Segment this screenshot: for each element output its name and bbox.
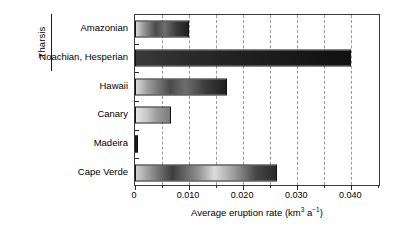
x-tick-label: 0 bbox=[131, 190, 136, 200]
category-tick bbox=[135, 72, 139, 73]
bar bbox=[135, 50, 351, 67]
category-tick bbox=[135, 130, 139, 131]
bar bbox=[135, 164, 277, 181]
category-label: Amazonian bbox=[80, 23, 128, 33]
x-tick-minor bbox=[270, 185, 271, 188]
x-axis-tick-labels: 00.0100.0200.0300.040 bbox=[134, 190, 380, 202]
group-bracket-tharsis: Tharsis bbox=[12, 14, 52, 71]
group-bracket-label: Tharsis bbox=[36, 14, 48, 71]
x-axis-title-text: Average eruption rate (km bbox=[191, 207, 301, 218]
bar-series bbox=[135, 15, 379, 185]
category-tick bbox=[135, 158, 139, 159]
x-tick-minor bbox=[216, 185, 217, 188]
x-tick-minor bbox=[378, 185, 379, 188]
x-tick-label: 0.040 bbox=[339, 190, 362, 200]
bar bbox=[135, 78, 227, 95]
bar bbox=[135, 21, 189, 38]
category-tick bbox=[135, 101, 139, 102]
category-label: Noachian, Hesperian bbox=[39, 52, 128, 62]
x-axis-title-paren: ) bbox=[320, 207, 323, 218]
x-axis-title: Average eruption rate (km3 a−1) bbox=[134, 206, 380, 218]
category-label: Hawaii bbox=[99, 81, 128, 91]
x-axis-title-exponent-time: −1 bbox=[312, 206, 319, 213]
chart-figure: Tharsis AmazonianNoachian, HesperianHawa… bbox=[0, 0, 397, 240]
category-tick bbox=[135, 44, 139, 45]
category-label: Canary bbox=[97, 109, 128, 119]
x-tick-label: 0.010 bbox=[177, 190, 200, 200]
x-tick-label: 0.020 bbox=[231, 190, 254, 200]
x-tick-minor bbox=[324, 185, 325, 188]
bar bbox=[135, 136, 138, 153]
category-axis-labels: AmazonianNoachian, HesperianHawaiiCanary… bbox=[48, 14, 132, 186]
category-label: Madeira bbox=[94, 138, 128, 148]
plot-area bbox=[134, 14, 380, 186]
x-tick-minor bbox=[162, 185, 163, 188]
bar bbox=[135, 107, 171, 124]
category-label: Cape Verde bbox=[78, 167, 128, 177]
x-tick-label: 0.030 bbox=[285, 190, 308, 200]
